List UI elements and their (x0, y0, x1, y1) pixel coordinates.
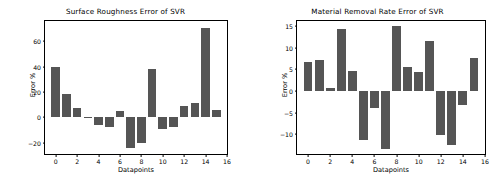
bar (180, 106, 189, 117)
y-tick-mark (295, 47, 298, 48)
plot-area (297, 21, 485, 154)
x-tick-mark (330, 154, 331, 157)
x-axis-label: Datapoints (297, 166, 485, 174)
bar (414, 72, 423, 91)
x-tick-mark (396, 154, 397, 157)
x-tick-mark (485, 154, 486, 157)
bar (458, 91, 467, 105)
x-axis-label: Datapoints (45, 166, 227, 174)
bar (212, 110, 221, 118)
bar (84, 117, 93, 118)
chart-panel-material-removal-rate: Material Removal Rate Error of SVR Error… (252, 0, 503, 186)
x-tick-mark (352, 154, 353, 157)
chart-title: Material Removal Rate Error of SVR (252, 7, 503, 16)
bar (315, 60, 324, 91)
bar (348, 71, 357, 91)
x-tick-mark (98, 154, 99, 157)
x-tick-mark (162, 154, 163, 157)
bar (425, 41, 434, 91)
bar (126, 117, 135, 148)
x-tick-mark (205, 154, 206, 157)
bar (359, 91, 368, 140)
bar (201, 28, 210, 117)
x-tick-mark (462, 154, 463, 157)
bar (191, 103, 200, 117)
x-tick-mark (308, 154, 309, 157)
x-tick-mark (77, 154, 78, 157)
bar (447, 91, 456, 145)
bar (326, 88, 335, 91)
y-tick-mark (43, 66, 46, 67)
x-tick-mark (120, 154, 121, 157)
bar (436, 91, 445, 135)
plot-frame: Error % −2002040600246810121416 Datapoin… (44, 20, 228, 155)
bar (470, 58, 479, 91)
chart-panel-surface-roughness: Surface Roughness Error of SVR Error % −… (0, 0, 251, 186)
x-tick-mark (440, 154, 441, 157)
bar (337, 29, 346, 91)
bar (105, 117, 114, 127)
plot-frame: Error % −10−50510150246810121416 Datapoi… (296, 20, 486, 155)
y-tick-mark (295, 69, 298, 70)
y-tick-mark (43, 117, 46, 118)
bar (370, 91, 379, 108)
bar (137, 117, 146, 143)
chart-title: Surface Roughness Error of SVR (0, 7, 251, 16)
plot-area (45, 21, 227, 154)
bar (94, 117, 103, 125)
x-tick-mark (418, 154, 419, 157)
bar (158, 117, 167, 128)
y-tick-mark (295, 91, 298, 92)
y-tick-mark (295, 26, 298, 27)
bar (148, 69, 157, 117)
y-tick-mark (43, 92, 46, 93)
y-tick-mark (43, 142, 46, 143)
y-tick-mark (295, 112, 298, 113)
bar (116, 111, 125, 117)
x-tick-mark (141, 154, 142, 157)
x-tick-mark (374, 154, 375, 157)
x-tick-mark (184, 154, 185, 157)
bar (381, 91, 390, 149)
bar (62, 94, 71, 117)
bar (392, 26, 401, 91)
y-tick-mark (43, 41, 46, 42)
figure-canvas: Surface Roughness Error of SVR Error % −… (0, 0, 503, 186)
bar (169, 117, 178, 127)
y-axis-label: Error % (281, 73, 289, 97)
bar (403, 67, 412, 91)
bar (304, 62, 313, 91)
bar (51, 67, 60, 117)
x-tick-mark (55, 154, 56, 157)
y-tick-mark (295, 134, 298, 135)
x-tick-mark (227, 154, 228, 157)
bar (73, 108, 82, 117)
